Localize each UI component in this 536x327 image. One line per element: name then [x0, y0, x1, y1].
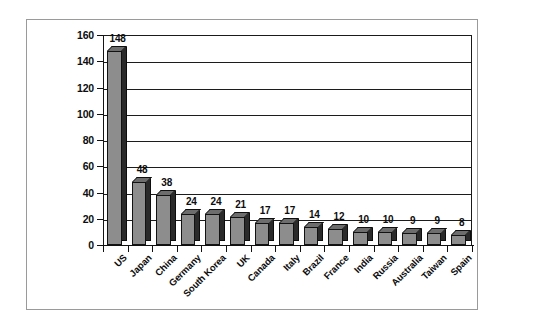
bar-side-face	[171, 191, 176, 241]
bar-value-label: 9	[410, 215, 415, 226]
bar-value-label: 8	[459, 217, 464, 228]
chart-page: 020406080100120140160 148483824242117171…	[0, 0, 536, 327]
y-axis-tick-label: 80	[0, 134, 94, 146]
bar-front-face	[107, 51, 122, 245]
bar-value-label: 21	[235, 199, 246, 210]
bar-value-label: 17	[284, 205, 295, 216]
bar-value-label: 14	[309, 209, 320, 220]
bar	[107, 51, 122, 245]
bar	[132, 182, 147, 245]
bar-chart: 020406080100120140160 148483824242117171…	[0, 0, 536, 327]
y-axis-tick-label: 100	[0, 108, 94, 120]
bar-value-label: 10	[383, 214, 394, 225]
bar-side-face	[195, 210, 200, 242]
bar-value-label: 48	[137, 164, 148, 175]
bar-value-label: 10	[358, 214, 369, 225]
y-axis-tick-label: 40	[0, 187, 94, 199]
y-axis-tick-label: 20	[0, 213, 94, 225]
y-axis-tick-label: 140	[0, 55, 94, 67]
bar-value-label: 9	[435, 215, 440, 226]
y-axis-tick-label: 60	[0, 160, 94, 172]
bar-side-face	[146, 178, 151, 241]
y-axis-tick-label: 120	[0, 82, 94, 94]
y-axis-tick-label: 0	[0, 239, 94, 251]
bar-value-label: 24	[186, 196, 197, 207]
bar-side-face	[122, 47, 127, 241]
bar-value-label: 148	[110, 33, 126, 44]
y-axis-tick-label: 160	[0, 29, 94, 41]
bar-value-label: 12	[334, 211, 345, 222]
bar-value-label: 38	[161, 177, 172, 188]
bars-layer: 1484838242421171714121010998	[103, 35, 474, 245]
x-axis-category-label-text: US	[112, 252, 129, 269]
x-axis-category-label-text: Italy	[280, 252, 301, 273]
bar-front-face	[132, 182, 147, 245]
x-axis-category-label-text: UK	[235, 252, 252, 269]
x-axis-category-labels: USJapanChinaGermanySouth KoreaUKCanadaIt…	[103, 252, 474, 322]
bar-value-label: 24	[211, 196, 222, 207]
x-axis-tick	[103, 245, 104, 252]
